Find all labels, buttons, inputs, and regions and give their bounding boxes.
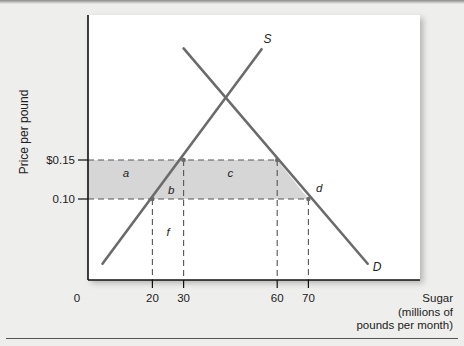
x-tick-label: 60 (271, 292, 284, 304)
y-tick-label: $0.15 (46, 154, 75, 166)
curves-layer (102, 48, 367, 263)
area-label-c: c (228, 167, 234, 179)
shaded-area-layer (88, 160, 308, 199)
x-axis-label-line: Sugar (422, 292, 453, 304)
key-point-marker (275, 158, 279, 162)
area-label-d: d (316, 182, 323, 194)
key-point-marker (181, 158, 185, 162)
x-axis-label-line: (millions of (398, 306, 454, 318)
area-label-b: b (168, 184, 175, 196)
key-point-marker (150, 197, 154, 201)
origin-label: 0 (74, 292, 80, 304)
x-tick-label: 30 (177, 292, 190, 304)
chart-svg: SDabcdf$0.150.10203060700Sugar(millions … (0, 0, 464, 346)
y-tick-label: 0.10 (53, 193, 75, 205)
x-axis-label-line: pounds per month) (356, 319, 453, 331)
axes-layer (88, 15, 420, 280)
bottom-rule (6, 338, 458, 339)
shaded-band (88, 160, 308, 199)
demand-curve (184, 48, 368, 263)
demand-label: D (373, 260, 382, 274)
area-label-a: a (123, 167, 129, 179)
supply-curve (102, 49, 261, 263)
x-tick-label: 20 (146, 292, 159, 304)
chart-figure: SDabcdf$0.150.10203060700Sugar(millions … (0, 0, 464, 346)
supply-label: S (264, 32, 272, 46)
area-label-f: f (166, 226, 171, 238)
key-point-marker (306, 197, 310, 201)
x-tick-label: 70 (302, 292, 315, 304)
y-axis-label: Price per pound (17, 90, 31, 175)
